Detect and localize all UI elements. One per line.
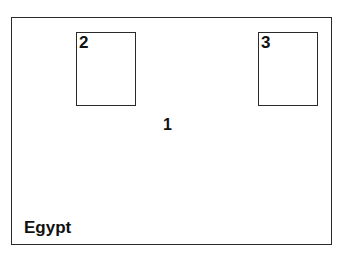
main-area-label: 1: [163, 117, 172, 133]
box-3-label: 3: [261, 34, 270, 51]
box-3: 3: [258, 32, 318, 106]
box-2-label: 2: [79, 34, 88, 51]
box-2: 2: [76, 32, 136, 106]
region-label: Egypt: [24, 219, 71, 237]
